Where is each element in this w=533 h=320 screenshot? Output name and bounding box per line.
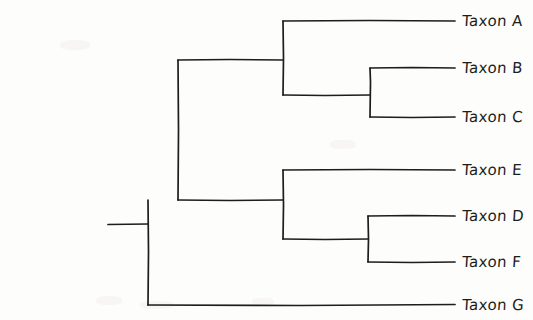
branch-taxon-a <box>283 21 455 22</box>
branch-taxon-f <box>368 262 455 263</box>
branch-taxon-c <box>370 117 455 118</box>
branch-taxon-d <box>368 216 455 217</box>
branch-node2-to-lower <box>178 200 283 201</box>
tip-label-taxon-d: Taxon D <box>461 207 524 225</box>
branch-taxon-g <box>148 305 455 306</box>
branch-df-vertical <box>368 216 369 262</box>
branch-upper-to-bc <box>283 95 370 96</box>
branch-bc-vertical <box>370 68 371 117</box>
branch-upper-vertical <box>283 21 284 95</box>
tip-label-taxon-e: Taxon E <box>461 161 522 179</box>
branch-taxon-e <box>283 170 455 171</box>
branch-node2-vertical <box>178 60 179 200</box>
branch-root-vertical <box>148 200 149 305</box>
branch-node2-to-upper <box>178 60 283 61</box>
branch-lower-vertical <box>283 170 284 239</box>
tip-label-taxon-c: Taxon C <box>461 108 523 126</box>
tip-label-taxon-b: Taxon B <box>461 59 523 77</box>
phylogenetic-tree-figure: Taxon A Taxon B Taxon C Taxon E Taxon D … <box>0 0 533 320</box>
tree-branches <box>0 0 533 320</box>
branch-lower-to-df <box>283 239 368 240</box>
branch-taxon-b <box>370 68 455 69</box>
tip-label-taxon-a: Taxon A <box>461 12 523 30</box>
tip-label-taxon-f: Taxon F <box>461 253 521 271</box>
tip-label-taxon-g: Taxon G <box>461 296 524 314</box>
branch-root-stem <box>108 224 148 225</box>
